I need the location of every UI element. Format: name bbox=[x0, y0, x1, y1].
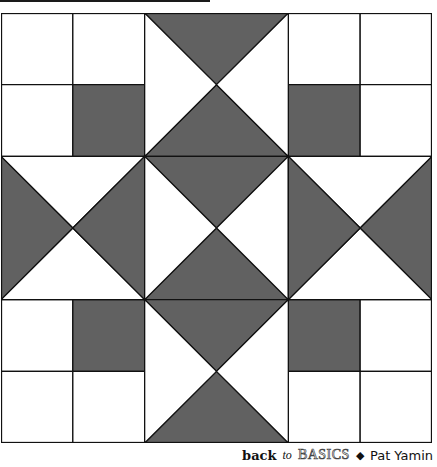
four-patch-square-bottom-right-top-left bbox=[288, 300, 360, 372]
four-patch-square-bottom-left-top-right bbox=[73, 300, 145, 372]
four-patch-square-top-right-top-left bbox=[288, 13, 360, 85]
four-patch-square-top-right-top-right bbox=[360, 13, 432, 85]
four-patch-square-top-right-bottom-left bbox=[288, 85, 360, 157]
four-patch-square-top-left-top-right bbox=[73, 13, 145, 85]
caption: back to BASICS ◆ Pat Yamin bbox=[242, 446, 433, 464]
four-patch-square-bottom-right-bottom-right bbox=[360, 371, 432, 443]
four-patch-square-bottom-left-bottom-right bbox=[73, 371, 145, 443]
four-patch-square-bottom-right-bottom-left bbox=[288, 371, 360, 443]
top-rule-line bbox=[0, 0, 210, 2]
quilt-block-diagram bbox=[1, 13, 432, 443]
caption-back: back bbox=[242, 448, 276, 463]
caption-to: to bbox=[283, 448, 292, 463]
four-patch-square-bottom-left-bottom-left bbox=[1, 371, 73, 443]
four-patch-square-bottom-right-top-right bbox=[360, 300, 432, 372]
caption-author: Pat Yamin bbox=[370, 448, 433, 463]
four-patch-square-top-right-bottom-right bbox=[360, 85, 432, 157]
caption-basics: BASICS bbox=[298, 447, 350, 463]
diamond-icon: ◆ bbox=[356, 449, 364, 462]
four-patch-square-top-left-bottom-left bbox=[1, 85, 73, 157]
four-patch-square-top-left-top-left bbox=[1, 13, 73, 85]
four-patch-square-bottom-left-top-left bbox=[1, 300, 73, 372]
four-patch-square-top-left-bottom-right bbox=[73, 85, 145, 157]
quilt-patches bbox=[1, 13, 432, 443]
